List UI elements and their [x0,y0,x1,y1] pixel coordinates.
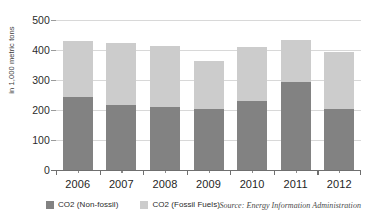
bar-segment-fossil-fuels [106,43,136,104]
x-tick-label: 2006 [56,178,100,190]
legend-label-non-fossil: CO2 (Non-fossil) [58,200,118,209]
bar-segment-non-fossil [194,109,224,171]
x-major-tick [100,170,101,175]
x-tick-label: 2011 [274,178,318,190]
legend-swatch-fossil-fuels [140,201,148,209]
x-minor-tick [165,171,166,173]
x-major-tick [56,170,57,175]
bar-segment-non-fossil [324,109,354,171]
chart-legend: CO2 (Non-fossil) CO2 (Fossil Fuels) [46,200,220,209]
x-minor-tick [121,171,122,173]
bar-group [63,41,93,170]
legend-swatch-non-fossil [46,201,54,209]
x-minor-tick [209,171,210,173]
stacked-bar-chart: in 1,000 metric tons 0100200300400500 20… [0,0,367,220]
y-tick-label: 0 [4,165,50,175]
bar-group [150,46,180,171]
bar-segment-fossil-fuels [150,46,180,108]
y-tick-label: 500 [4,15,50,25]
bars-layer [56,20,361,170]
bar-group [237,47,267,170]
bar-segment-non-fossil [281,82,311,171]
y-tick-label: 300 [4,75,50,85]
x-minor-tick [339,171,340,173]
bar-group [324,52,354,170]
bar-segment-fossil-fuels [281,40,311,82]
x-minor-tick [296,171,297,173]
x-major-tick [143,170,144,175]
bar-segment-fossil-fuels [63,41,93,97]
legend-item-fossil-fuels: CO2 (Fossil Fuels) [140,200,220,209]
x-tick-label: 2010 [230,178,274,190]
x-major-tick [274,170,275,175]
source-note: Source: Energy Information Administratio… [219,201,361,210]
x-major-tick [360,170,361,175]
bar-segment-fossil-fuels [324,52,354,108]
bar-group [281,40,311,171]
y-tick-label: 100 [4,135,50,145]
plot-area [56,20,361,170]
y-tick-label: 400 [4,45,50,55]
bar-group [194,61,224,170]
bar-segment-non-fossil [237,101,267,170]
legend-label-fossil-fuels: CO2 (Fossil Fuels) [152,200,220,209]
bar-segment-fossil-fuels [237,47,267,101]
legend-item-non-fossil: CO2 (Non-fossil) [46,200,118,209]
x-tick-label: 2012 [317,178,361,190]
x-minor-tick [252,171,253,173]
x-tick-label: 2007 [100,178,144,190]
x-major-tick [317,170,318,175]
y-tick-label: 200 [4,105,50,115]
x-tick-label: 2009 [187,178,231,190]
bar-segment-fossil-fuels [194,61,224,108]
x-tick-label: 2008 [143,178,187,190]
x-minor-tick [78,171,79,173]
bar-group [106,43,136,170]
bar-segment-non-fossil [63,97,93,171]
bar-segment-non-fossil [150,107,180,170]
x-major-tick [230,170,231,175]
x-major-tick [187,170,188,175]
bar-segment-non-fossil [106,105,136,170]
